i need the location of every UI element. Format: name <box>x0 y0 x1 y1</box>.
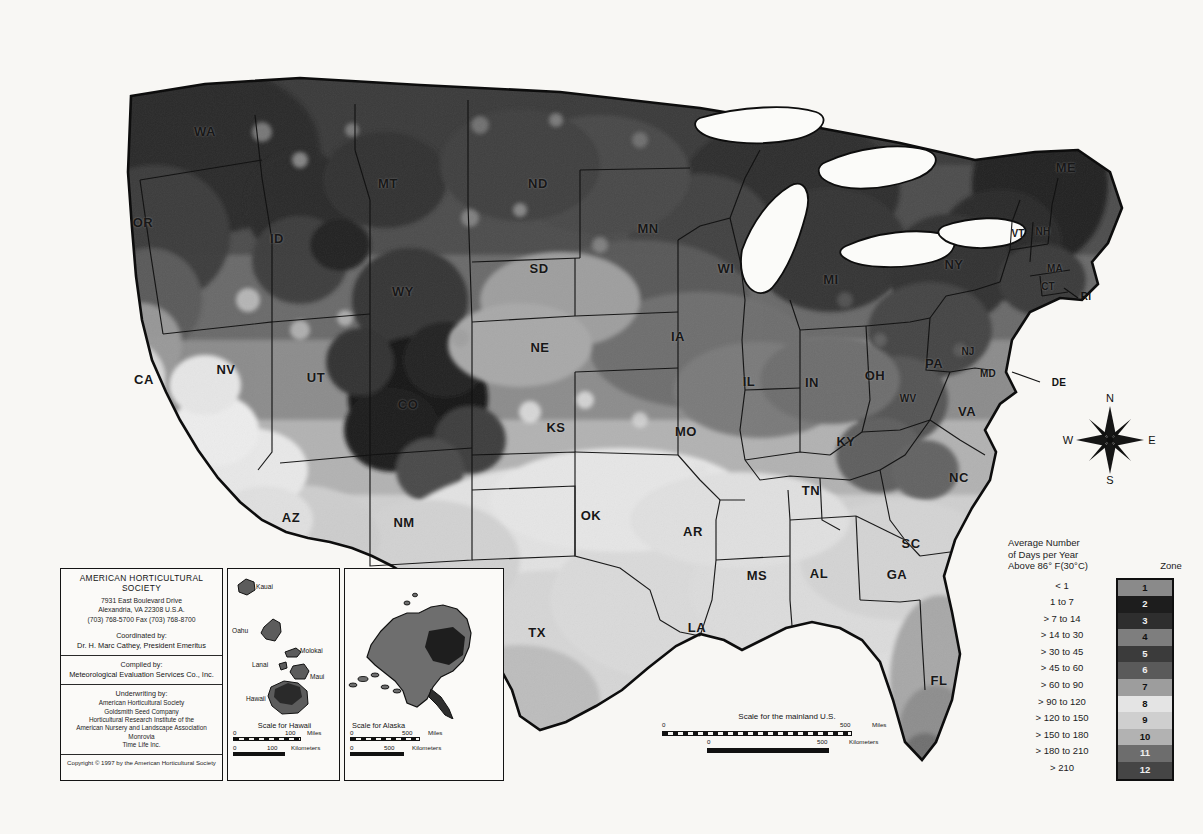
hawaii-inset-panel: Kauai Oahu Molokai Lanai Maui Hawaii Sca… <box>227 568 340 781</box>
compass-west-label: W <box>1063 434 1074 446</box>
alaska-scalebar: Scale for Alaska 0 500 Miles 0 500 Kilom… <box>350 721 500 760</box>
legend-zone-number: 10 <box>1140 731 1151 742</box>
legend: Average Number of Days per Year Above 86… <box>1008 537 1198 781</box>
island-maui-shape <box>290 664 309 679</box>
mainland-scale-title: Scale for the mainland U.S. <box>662 712 912 721</box>
mainland-miles-start: 0 <box>662 721 665 728</box>
legend-swatch-zone-3: 3 <box>1118 613 1172 630</box>
legend-label-zone-10: > 150 to 180 <box>1008 727 1116 744</box>
island-kauai-shape <box>238 579 255 595</box>
compiled-lead: Compiled by: <box>66 660 217 670</box>
credits-panel: AMERICAN HORTICULTURAL SOCIETY 7931 East… <box>60 568 223 781</box>
alaska-scale-miles: 0 500 Miles <box>350 731 500 745</box>
alaska-inset-map <box>345 569 502 719</box>
heat-zone-map-page: WAORMTIDNDMNSDWIMIWYIANENVUTCAILINOHPANY… <box>0 0 1203 834</box>
legend-swatch-column: 123456789101112 <box>1116 578 1174 781</box>
legend-zone-header: Zone <box>1144 560 1198 572</box>
society-name: AMERICAN HORTICULTURAL SOCIETY <box>66 573 217 593</box>
legend-title: Average Number of Days per Year Above 86… <box>1008 537 1116 572</box>
mainland-scale-miles: 0 500 Miles <box>662 723 912 739</box>
underwriter-line: American Horticultural Society <box>66 699 217 707</box>
underwriter-line: Time Life Inc. <box>66 741 217 749</box>
alaska-panhandle <box>429 689 453 719</box>
legend-label-zone-1: < 1 <box>1008 578 1116 595</box>
legend-zone-number: 5 <box>1142 648 1147 659</box>
alaska-scale-km: 0 500 Kilometers <box>350 746 500 760</box>
underwriting-lead: Underwriting by: <box>66 689 217 699</box>
compass-south-label: S <box>1106 474 1113 486</box>
island-label-kauai: Kauai <box>256 583 273 590</box>
legend-label-column: < 11 to 7> 7 to 14> 14 to 30> 30 to 45> … <box>1008 578 1116 781</box>
hawaii-inset-map <box>228 569 338 719</box>
mainland-miles-end: 500 <box>840 721 850 728</box>
compass-rose: N S E W <box>1062 388 1158 488</box>
legend-zone-number: 2 <box>1142 598 1147 609</box>
legend-zone-number: 11 <box>1140 747 1150 758</box>
compass-north-label: N <box>1106 392 1114 404</box>
legend-zone-number: 4 <box>1142 631 1147 642</box>
island-label-hawaii: Hawaii <box>246 695 266 702</box>
legend-swatch-zone-2: 2 <box>1118 596 1172 613</box>
legend-swatch-zone-5: 5 <box>1118 646 1172 663</box>
island-label-lanai: Lanai <box>252 661 268 668</box>
legend-zone-number: 3 <box>1142 615 1147 626</box>
legend-zone-number: 6 <box>1142 664 1147 675</box>
legend-zone-number: 9 <box>1142 714 1147 725</box>
underwriter-line: Monrovia <box>66 733 217 741</box>
legend-body: < 11 to 7> 7 to 14> 14 to 30> 30 to 45> … <box>1008 578 1198 781</box>
legend-label-zone-5: > 30 to 45 <box>1008 644 1116 661</box>
copyright-line: Copyright © 1997 by the American Horticu… <box>66 759 217 766</box>
legend-swatch-zone-10: 10 <box>1118 729 1172 746</box>
legend-swatch-zone-4: 4 <box>1118 629 1172 646</box>
alaska-km-start: 0 <box>350 744 353 751</box>
coordinated-name: Dr. H. Marc Cathey, President Emeritus <box>66 641 217 651</box>
legend-header: Average Number of Days per Year Above 86… <box>1008 537 1198 572</box>
alaska-scale-title: Scale for Alaska <box>350 721 500 730</box>
legend-label-zone-8: > 90 to 120 <box>1008 694 1116 711</box>
mainland-scale-km: 0 500 Kilometers <box>707 740 912 756</box>
legend-swatch-zone-11: 11 <box>1118 745 1172 762</box>
hawaii-km-end: 100 <box>267 744 277 751</box>
hawaii-scale-miles: 0 100 Miles <box>233 731 336 745</box>
legend-zone-number: 1 <box>1142 582 1147 593</box>
address-line-1: 7931 East Boulevard Drive <box>66 596 217 605</box>
legend-label-zone-4: > 14 to 30 <box>1008 627 1116 644</box>
legend-label-zone-9: > 120 to 150 <box>1008 710 1116 727</box>
hawaii-miles-end: 100 <box>285 729 295 736</box>
legend-swatch-zone-7: 7 <box>1118 679 1172 696</box>
credits-underwriting-section: Underwriting by: American Horticultural … <box>61 684 222 753</box>
underwriter-line: Goldsmith Seed Company <box>66 708 217 716</box>
underwriter-line: Horticultural Research Institute of the <box>66 716 217 724</box>
legend-swatch-zone-8: 8 <box>1118 696 1172 713</box>
legend-zone-number: 8 <box>1142 698 1147 709</box>
legend-label-zone-7: > 60 to 90 <box>1008 677 1116 694</box>
address-line-2: Alexandria, VA 22308 U.S.A. <box>66 605 217 614</box>
mainland-miles-unit: Miles <box>872 721 886 728</box>
phone-line: (703) 768-5700 Fax (703) 768-8700 <box>66 615 217 624</box>
hawaii-miles-unit: Miles <box>307 729 321 736</box>
coordinated-lead: Coordinated by: <box>66 631 217 641</box>
island-lanai-shape <box>279 662 287 670</box>
underwriter-line: American Nursery and Landscape Associati… <box>66 724 217 732</box>
legend-label-zone-12: > 210 <box>1008 760 1116 777</box>
hawaii-km-start: 0 <box>233 744 236 751</box>
legend-swatch-zone-1: 1 <box>1118 580 1172 597</box>
alaska-miles-end: 500 <box>402 729 412 736</box>
hawaii-miles-start: 0 <box>233 729 236 736</box>
credits-org-section: AMERICAN HORTICULTURAL SOCIETY 7931 East… <box>61 569 222 655</box>
legend-swatch-zone-9: 9 <box>1118 712 1172 729</box>
mainland-scalebar: Scale for the mainland U.S. 0 500 Miles … <box>662 712 912 756</box>
island-molokai-shape <box>285 648 301 657</box>
compiled-name: Meteorological Evaluation Services Co., … <box>66 670 217 680</box>
legend-label-zone-11: > 180 to 210 <box>1008 743 1116 760</box>
legend-swatch-zone-12: 12 <box>1118 762 1172 779</box>
credits-compiled-section: Compiled by: Meteorological Evaluation S… <box>61 655 222 684</box>
legend-swatch-zone-6: 6 <box>1118 662 1172 679</box>
alaska-miles-unit: Miles <box>428 729 442 736</box>
alaska-inset-panel: Scale for Alaska 0 500 Miles 0 500 Kilom… <box>344 568 504 781</box>
hawaii-scalebar: Scale for Hawaii 0 100 Miles 0 100 Kilom… <box>233 721 336 760</box>
alaska-km-unit: Kilometers <box>412 744 441 751</box>
alaska-miles-start: 0 <box>350 729 353 736</box>
island-label-molokai: Molokai <box>300 647 323 654</box>
island-label-maui: Maui <box>310 673 324 680</box>
